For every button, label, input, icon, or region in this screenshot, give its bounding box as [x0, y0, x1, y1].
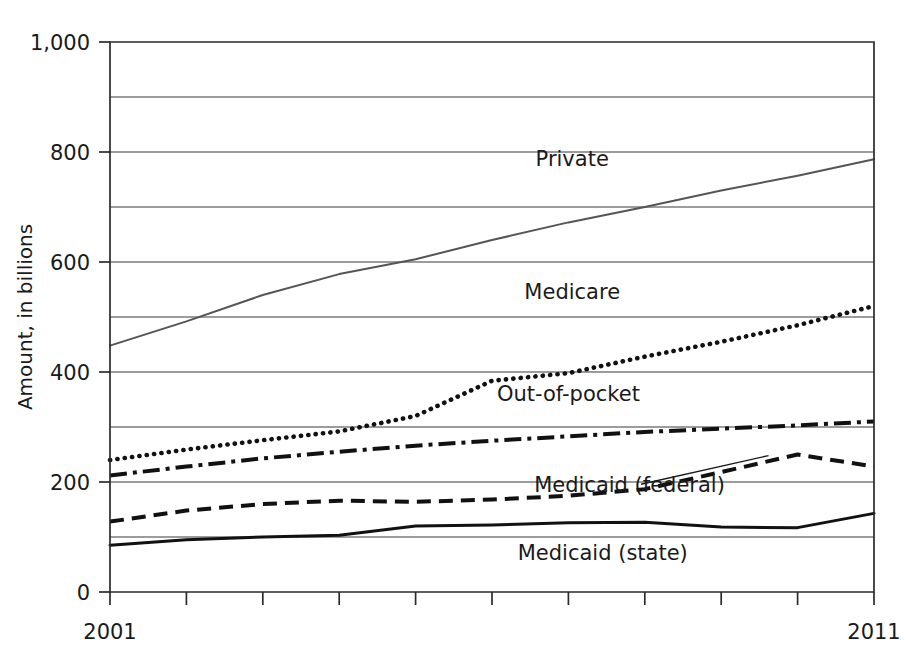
series-label-medicaid-federal: Medicaid (federal) [534, 473, 725, 497]
y-tick-label: 800 [50, 141, 90, 165]
x-axis-tick-labels: 20012011 [83, 620, 900, 644]
series-label-medicaid-state: Medicaid (state) [518, 541, 688, 565]
chart-figure: 02004006008001,000 20012011 Amount, in b… [0, 0, 907, 659]
y-tick-label: 400 [50, 361, 90, 385]
series-line-medicaid-federal [110, 455, 874, 522]
series-line-private [110, 159, 874, 345]
gridlines [110, 97, 874, 537]
y-axis-tick-labels: 02004006008001,000 [30, 31, 110, 605]
y-tick-label: 1,000 [30, 31, 90, 55]
series-label-out-of-pocket: Out-of-pocket [497, 382, 640, 406]
y-tick-label: 0 [77, 581, 90, 605]
x-tick-label: 2011 [847, 620, 900, 644]
series-line-medicare [110, 306, 874, 460]
y-tick-label: 200 [50, 471, 90, 495]
y-tick-label: 600 [50, 251, 90, 275]
y-axis-title: Amount, in billions [13, 224, 37, 410]
x-tick-label: 2001 [83, 620, 136, 644]
series-line-medicaid-state [110, 513, 874, 545]
x-axis-ticks [110, 592, 874, 605]
series-line-out-of-pocket [110, 422, 874, 476]
series-label-private: Private [536, 147, 609, 171]
series-lines [110, 159, 874, 545]
series-label-medicare: Medicare [524, 280, 620, 304]
line-chart: 02004006008001,000 20012011 Amount, in b… [0, 0, 907, 659]
y-axis-title-text: Amount, in billions [13, 224, 37, 410]
